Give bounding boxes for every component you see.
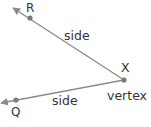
label-vertex: vertex xyxy=(107,88,147,103)
point-r xyxy=(27,15,32,20)
point-x-vertex xyxy=(121,77,126,82)
label-q: Q xyxy=(11,105,20,119)
angle-diagram: R side X vertex side Q xyxy=(0,0,151,127)
label-x: X xyxy=(121,60,130,75)
label-side-lower: side xyxy=(52,93,78,108)
point-q xyxy=(13,97,18,102)
label-side-upper: side xyxy=(64,28,90,43)
label-r: R xyxy=(26,1,34,15)
